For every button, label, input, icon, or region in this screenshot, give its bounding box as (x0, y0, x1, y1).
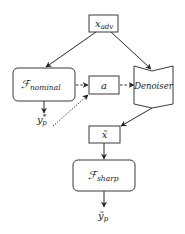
y-star-label: y*p (36, 113, 47, 127)
node-f-sharp: ℱsharp (73, 160, 135, 191)
y-tilde-sub: p (104, 215, 109, 223)
node-a: a (89, 76, 119, 94)
node-x-adv: xadv (89, 15, 118, 32)
node-f-nominal: ℱnominal (13, 68, 75, 101)
denoiser-label: Denoiser (133, 81, 174, 91)
edge-xadv-to-denoiser (111, 32, 151, 69)
a-label: a (101, 80, 107, 91)
f-nominal-sub: nominal (30, 83, 61, 92)
x-tilde-label: x̃ (102, 129, 108, 140)
edge-denoiser-to-xtilde (121, 108, 152, 126)
y-tilde-label: ỹp (97, 210, 109, 223)
node-denoiser: Denoiser (133, 66, 174, 108)
f-sharp-sub: sharp (97, 174, 119, 183)
flow-diagram: xadv ℱnominal a Denoiser y*p x̃ ℱsharp y… (0, 0, 185, 234)
edge-xadv-to-fnominal (46, 32, 96, 67)
node-x-tilde: x̃ (89, 126, 120, 143)
x-adv-sub: adv (101, 23, 114, 31)
y-star-sub: p (42, 119, 47, 127)
